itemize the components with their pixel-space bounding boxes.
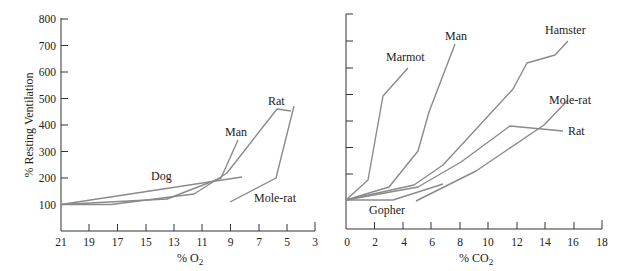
x-axis-label-main: % O — [177, 251, 199, 265]
label-marmot: Marmot — [386, 50, 425, 64]
x-tick-12: 12 — [511, 236, 523, 248]
series-marmot — [346, 68, 408, 200]
x-tick-11: 11 — [196, 236, 207, 248]
label-hamster: Hamster — [545, 23, 586, 37]
x-axis-label-o2: % O2 — [177, 251, 203, 267]
series-man-co2 — [346, 44, 455, 200]
x-tick-4: 4 — [401, 236, 407, 248]
x-axis-label-sub: 2 — [489, 257, 494, 267]
label-rat-o2: Rat — [268, 94, 285, 108]
x-tick-8: 8 — [457, 236, 463, 248]
x-tick-0: 0 — [344, 236, 350, 248]
x-tick-21: 21 — [55, 236, 67, 248]
x-tick-17: 17 — [112, 236, 124, 248]
y-tick-100: 100 — [39, 199, 57, 211]
x-tick-5: 5 — [284, 236, 290, 248]
series-mole-rat-o2 — [230, 106, 294, 202]
x-tick-10: 10 — [482, 236, 494, 248]
x-tick-3: 3 — [312, 236, 318, 248]
label-man-co2: Man — [445, 29, 467, 43]
y-tick-800: 800 — [39, 13, 57, 25]
x-tick-16: 16 — [567, 236, 579, 248]
x-axis-label-co2: % CO2 — [459, 251, 493, 267]
chart-canvas: 800 700 600 500 400 300 200 100 21 19 17… — [0, 0, 627, 271]
x-tick-15: 15 — [140, 236, 152, 248]
label-mole-rat-o2: Mole-rat — [254, 191, 297, 205]
label-man-o2: Man — [225, 125, 247, 139]
label-rat-co2: Rat — [568, 124, 585, 138]
x-axis-label-main: % CO — [459, 251, 489, 265]
label-gopher: Gopher — [369, 203, 405, 217]
y-tick-700: 700 — [39, 40, 57, 52]
ventilation-charts: 800 700 600 500 400 300 200 100 21 19 17… — [0, 0, 627, 271]
y-tick-300: 300 — [39, 146, 57, 158]
x-axis-label-sub: 2 — [199, 257, 204, 267]
x-tick-6: 6 — [429, 236, 435, 248]
series-rat-co2 — [346, 126, 563, 200]
x-tick-7: 7 — [256, 236, 262, 248]
x-tick-9: 9 — [228, 236, 234, 248]
x-tick-14: 14 — [539, 236, 551, 248]
right-chart: 0 2 4 6 8 10 12 14 16 18 % CO2 Marmot Ma… — [344, 14, 608, 267]
x-tick-19: 19 — [83, 236, 95, 248]
y-tick-600: 600 — [39, 66, 57, 78]
label-dog: Dog — [151, 169, 172, 183]
left-chart: 800 700 600 500 400 300 200 100 21 19 17… — [22, 13, 318, 267]
series-man-o2 — [61, 140, 238, 205]
y-axis-label: % Resting Ventilation — [22, 72, 36, 177]
y-tick-500: 500 — [39, 93, 57, 105]
x-tick-13: 13 — [168, 236, 180, 248]
label-mole-rat-co2: Mole-rat — [549, 93, 592, 107]
x-tick-2: 2 — [372, 236, 378, 248]
y-tick-200: 200 — [39, 172, 57, 184]
x-tick-18: 18 — [596, 236, 608, 248]
y-tick-400: 400 — [39, 119, 57, 131]
